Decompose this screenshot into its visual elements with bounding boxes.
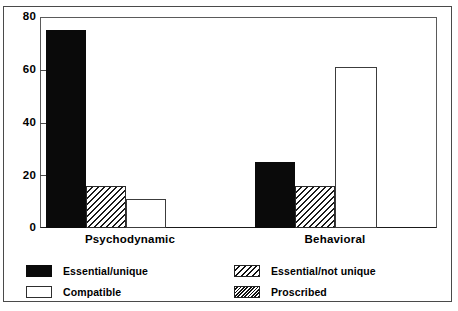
legend-swatch-hatch-icon <box>234 265 260 277</box>
legend-item-essential-not-unique[interactable]: Essential/not unique <box>234 265 376 277</box>
x-group-label-behavioral: Behavioral <box>255 233 415 245</box>
y-tick-label-20: 20 <box>6 170 36 181</box>
legend-item-proscribed[interactable]: Proscribed <box>234 286 327 298</box>
bars-layer <box>40 17 437 228</box>
bar-psychodynamic-essential-unique[interactable] <box>46 30 86 228</box>
y-tick-label-40: 40 <box>6 117 36 128</box>
y-tick-label-60: 60 <box>6 64 36 75</box>
bar-behavioral-essential-not-unique[interactable] <box>295 186 335 228</box>
y-tick-label-80: 80 <box>6 11 36 22</box>
legend-swatch-dense-icon <box>234 286 260 298</box>
y-axis: 80 60 40 20 0 <box>0 0 36 250</box>
bar-psychodynamic-compatible[interactable] <box>126 199 166 228</box>
legend: Essential/unique Compatible Essential/no… <box>0 262 458 310</box>
legend-label-essential-unique: Essential/unique <box>63 265 148 277</box>
legend-swatch-solid-icon <box>26 265 52 277</box>
x-group-label-psychodynamic: Psychodynamic <box>50 233 210 245</box>
bar-behavioral-compatible[interactable] <box>335 67 377 228</box>
legend-label-compatible: Compatible <box>63 286 121 298</box>
bar-psychodynamic-essential-not-unique[interactable] <box>86 186 126 228</box>
legend-label-essential-not-unique: Essential/not unique <box>271 265 376 277</box>
figure: 80 60 40 20 0 Psychodynamic Behavioral <box>0 0 458 311</box>
legend-label-proscribed: Proscribed <box>271 286 327 298</box>
legend-swatch-open-icon <box>26 286 52 298</box>
legend-item-essential-unique[interactable]: Essential/unique <box>26 265 148 277</box>
bar-behavioral-essential-unique[interactable] <box>255 162 295 228</box>
y-tick-label-0: 0 <box>6 222 36 233</box>
plot-area: 80 60 40 20 0 Psychodynamic Behavioral <box>0 0 458 250</box>
legend-item-compatible[interactable]: Compatible <box>26 286 121 298</box>
